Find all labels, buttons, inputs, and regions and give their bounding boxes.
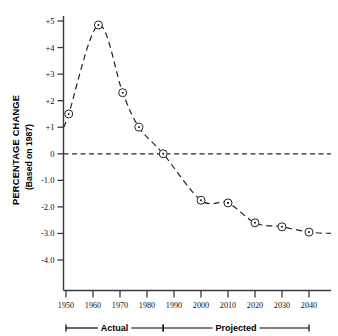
y-tick-label: +2	[45, 96, 54, 106]
x-tick-group: 1950196019701980199020002010202020302040	[58, 291, 317, 310]
x-tick-label: 2040	[301, 301, 317, 310]
marker-dot	[122, 92, 124, 94]
data-point-marker	[305, 228, 313, 236]
data-marker-group	[65, 21, 313, 236]
marker-dot	[162, 153, 164, 155]
data-point-marker	[251, 219, 259, 227]
span-projected: Projected	[163, 323, 309, 333]
span-actual-label: Actual	[101, 323, 129, 333]
y-tick-group: +5+4+3+2+10-1.0-2.0-3.0-4.0	[41, 16, 63, 265]
marker-dot	[254, 222, 256, 224]
x-tick-label: 1990	[166, 301, 182, 310]
data-point-marker	[135, 123, 143, 131]
data-point-marker	[224, 199, 232, 207]
data-point-marker	[65, 110, 73, 118]
chart-svg: PERCENTAGE CHANGE (Based on 1987) +5+4+3…	[0, 0, 338, 336]
x-tick-label: 1980	[139, 301, 155, 310]
x-tick-label: 1960	[85, 301, 101, 310]
x-tick-label: 2020	[247, 301, 263, 310]
x-tick-label: 2010	[220, 301, 236, 310]
y-axis-title: PERCENTAGE CHANGE (Based on 1987)	[11, 95, 34, 205]
y-tick-label: -3.0	[41, 228, 54, 238]
marker-dot	[308, 231, 310, 233]
x-tick-label: 1970	[112, 301, 128, 310]
axes	[64, 16, 332, 291]
y-axis-subtitle-text: (Based on 1987)	[24, 124, 34, 190]
marker-dot	[281, 226, 283, 228]
y-tick-label: +3	[45, 69, 54, 79]
y-tick-label: -4.0	[41, 255, 54, 265]
x-tick-label: 1950	[58, 301, 74, 310]
y-tick-label: -2.0	[41, 202, 54, 212]
data-point-marker	[119, 89, 127, 97]
data-point-marker	[159, 150, 167, 158]
marker-dot	[97, 24, 99, 26]
x-tick-label: 2030	[274, 301, 290, 310]
percentage-change-chart: PERCENTAGE CHANGE (Based on 1987) +5+4+3…	[0, 0, 338, 336]
data-point-marker	[197, 196, 205, 204]
data-point-marker	[278, 223, 286, 231]
y-tick-label: +4	[45, 43, 55, 53]
y-tick-label: +5	[45, 16, 54, 26]
y-axis-title-text: PERCENTAGE CHANGE	[11, 95, 21, 205]
y-tick-label: -1.0	[41, 175, 54, 185]
marker-dot	[68, 113, 70, 115]
span-projected-label: Projected	[216, 323, 257, 333]
marker-dot	[227, 202, 229, 204]
y-tick-label: 0	[50, 149, 54, 159]
marker-dot	[138, 126, 140, 128]
y-tick-label: +1	[45, 122, 54, 132]
data-point-marker	[94, 21, 102, 29]
marker-dot	[200, 199, 202, 201]
x-tick-label: 2000	[193, 301, 209, 310]
span-actual: Actual	[66, 323, 163, 333]
